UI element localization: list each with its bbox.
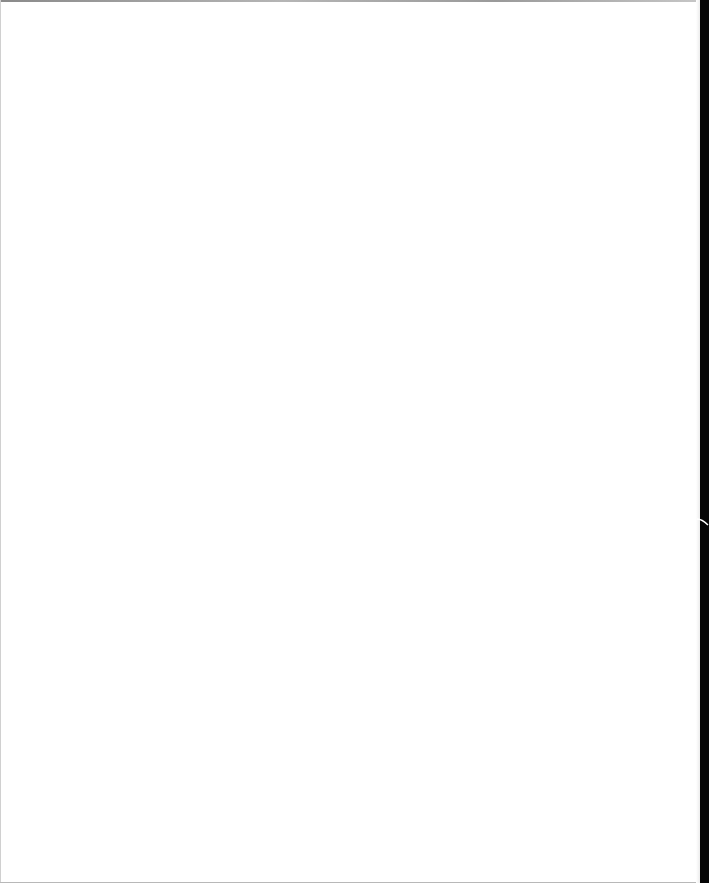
paper-curl-icon: [697, 518, 709, 526]
blank-page: [0, 0, 699, 883]
scan-right-border: [700, 0, 709, 883]
scan-left-edge: [0, 0, 1, 883]
scan-top-edge: [0, 0, 709, 2]
